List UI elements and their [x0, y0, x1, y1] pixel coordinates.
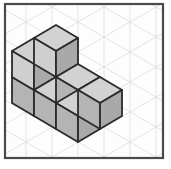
isometric-figure	[0, 0, 171, 169]
figure-root	[0, 0, 171, 169]
